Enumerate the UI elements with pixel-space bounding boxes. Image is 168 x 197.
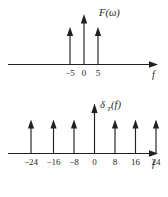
x-tick-label-pos5: 5: [96, 68, 101, 78]
impulse-pos5: [95, 27, 101, 65]
chart-f-omega: F(ω) −5 0 5 f: [0, 0, 168, 97]
x-axis: [8, 61, 158, 68]
x-tick-label-neg5: −5: [65, 68, 75, 78]
impulse-pos8: [112, 120, 118, 154]
chart-f-omega-canvas: F(ω) −5 0 5 f: [0, 0, 168, 97]
chart-title-delta-argument: (f): [111, 99, 121, 111]
x-tick-label-pos8: 8: [113, 157, 118, 167]
impulse-pos24: [153, 120, 159, 154]
x-tick-label-neg16: −16: [46, 157, 61, 167]
x-tick-label-pos16: 16: [131, 157, 141, 167]
x-tick-label-neg8: −8: [69, 157, 79, 167]
x-tick-label-neg24: −24: [24, 157, 39, 167]
impulse-zero: [81, 14, 87, 65]
chart-title-delta-glyph: δ: [100, 99, 106, 110]
x-tick-label-zero: 0: [92, 157, 97, 167]
x-axis-label: f: [152, 69, 156, 80]
impulse-zero: [91, 104, 97, 154]
chart-delta-t: δ T (f) −24 −16 −8 0 8 16 24 f: [0, 97, 168, 197]
chart-delta-t-canvas: δ T (f) −24 −16 −8 0 8 16 24 f: [0, 97, 168, 197]
x-axis-arrowhead: [149, 150, 158, 157]
x-tick-label-zero: 0: [82, 68, 87, 78]
figure-container: F(ω) −5 0 5 f: [0, 0, 168, 197]
impulse-neg16: [50, 120, 56, 154]
impulse-neg5: [67, 27, 73, 65]
impulse-neg8: [71, 120, 77, 154]
chart-title-delta-t: δ T (f): [100, 99, 121, 113]
chart-title-f-omega: F(ω): [98, 7, 120, 19]
impulse-neg24: [28, 120, 34, 154]
x-axis-arrowhead: [149, 61, 158, 68]
impulse-pos16: [132, 120, 138, 154]
